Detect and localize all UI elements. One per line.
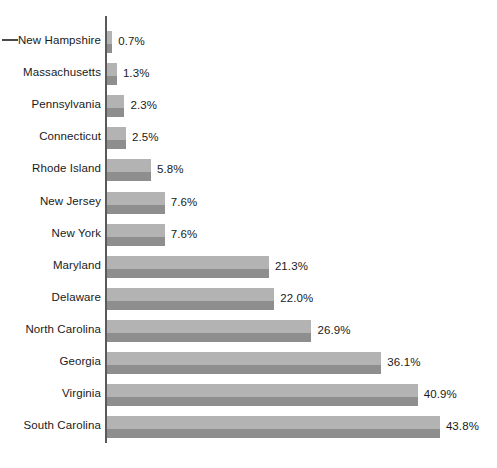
bar-row: Rhode Island5.8% — [0, 159, 497, 181]
bar-fill — [107, 224, 165, 246]
category-label: Virginia — [62, 387, 101, 399]
bar-fill — [107, 192, 165, 214]
bar — [107, 352, 381, 374]
bar-row: Delaware22.0% — [0, 288, 497, 310]
bar — [107, 192, 165, 214]
bar-value-label: 2.3% — [130, 99, 157, 111]
bar-row: Maryland21.3% — [0, 256, 497, 278]
category-label: New York — [52, 227, 101, 239]
bar-fill — [107, 127, 126, 149]
bar — [107, 224, 165, 246]
bar-value-label: 36.1% — [387, 356, 420, 368]
category-label: Pennsylvania — [31, 98, 101, 110]
bar — [107, 416, 440, 438]
category-label: South Carolina — [24, 419, 101, 431]
bar-fill — [107, 63, 117, 85]
bar-value-label: 7.6% — [171, 228, 198, 240]
bar-fill — [107, 31, 112, 53]
bar-row: New York7.6% — [0, 224, 497, 246]
bar-fill — [107, 288, 274, 310]
bar-value-label: 5.8% — [157, 163, 184, 175]
bar-value-label: 26.9% — [317, 324, 350, 336]
bar-row: New Jersey7.6% — [0, 192, 497, 214]
bar-fill — [107, 95, 124, 117]
bar-row: South Carolina43.8% — [0, 416, 497, 438]
bar-fill — [107, 256, 269, 278]
category-label: Connecticut — [39, 130, 101, 142]
bar-fill — [107, 416, 440, 438]
bar — [107, 320, 311, 342]
bar — [107, 127, 126, 149]
bar-row: Connecticut2.5% — [0, 127, 497, 149]
bar-fill — [107, 384, 418, 406]
bar — [107, 63, 117, 85]
bar-value-label: 43.8% — [446, 420, 479, 432]
bar-value-label: 7.6% — [171, 196, 198, 208]
bar-value-label: 0.7% — [118, 35, 145, 47]
bar — [107, 95, 124, 117]
bar-fill — [107, 159, 151, 181]
bar-row: Georgia36.1% — [0, 352, 497, 374]
bar-row: Virginia40.9% — [0, 384, 497, 406]
bar-value-label: 22.0% — [280, 292, 313, 304]
bar-value-label: 1.3% — [123, 67, 150, 79]
category-label: Georgia — [59, 355, 101, 367]
bar — [107, 31, 112, 53]
bar — [107, 159, 151, 181]
bar — [107, 288, 274, 310]
category-label: Maryland — [53, 259, 101, 271]
bar-row: Massachusetts1.3% — [0, 63, 497, 85]
bar-fill — [107, 352, 381, 374]
category-label: Delaware — [52, 291, 101, 303]
category-label: Rhode Island — [32, 162, 101, 174]
bar-fill — [107, 320, 311, 342]
bar — [107, 384, 418, 406]
bar-chart: New Hampshire0.7%Massachusetts1.3%Pennsy… — [0, 0, 497, 468]
bar-value-label: 21.3% — [275, 260, 308, 272]
bar-row: North Carolina26.9% — [0, 320, 497, 342]
category-label: New Jersey — [40, 195, 101, 207]
category-label: New Hampshire — [18, 34, 101, 46]
plot-area: New Hampshire0.7%Massachusetts1.3%Pennsy… — [0, 0, 497, 468]
bar-value-label: 2.5% — [132, 131, 159, 143]
bar-value-label: 40.9% — [424, 388, 457, 400]
category-label: Massachusetts — [23, 66, 101, 78]
bar-row: Pennsylvania2.3% — [0, 95, 497, 117]
bar-row: New Hampshire0.7% — [0, 31, 497, 53]
bar — [107, 256, 269, 278]
category-label: North Carolina — [25, 323, 101, 335]
